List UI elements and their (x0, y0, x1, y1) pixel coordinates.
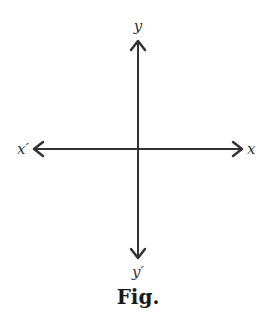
coordinate-axes-diagram: y y′ x′ x Fig. (0, 0, 266, 318)
figure-caption: Fig. (117, 285, 160, 309)
y-positive-label: y (133, 17, 143, 35)
x-positive-label: x (247, 140, 256, 158)
x-negative-label: x′ (17, 140, 29, 158)
y-negative-label: y′ (131, 263, 144, 281)
